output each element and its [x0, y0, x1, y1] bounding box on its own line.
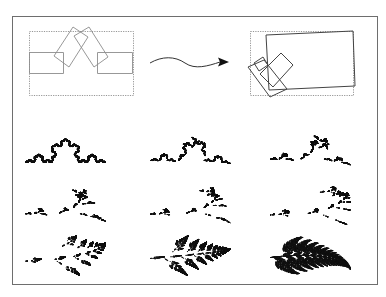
fractal-grid: [0, 0, 386, 297]
